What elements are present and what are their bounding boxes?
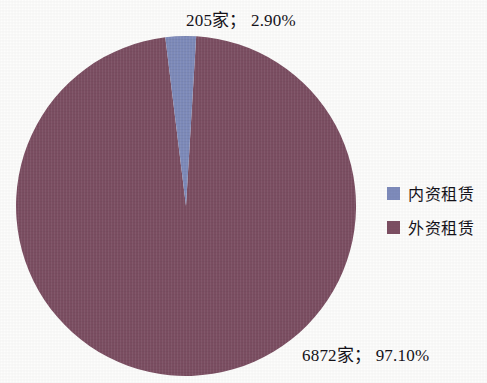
legend-label-foreign-leasing: 外资租赁 — [408, 215, 474, 239]
data-label-large-slice: 6872家； 97.10% — [302, 341, 429, 366]
pie-chart-figure: 205家； 2.90% 6872家； 97.10% 内资租赁 外资租赁 — [0, 0, 487, 383]
legend-label-domestic-leasing: 内资租赁 — [408, 181, 474, 205]
legend-swatch-foreign-leasing — [387, 221, 400, 234]
legend-swatch-domestic-leasing — [387, 187, 400, 200]
data-label-small-slice: 205家； 2.90% — [186, 6, 296, 31]
chart-legend: 内资租赁 外资租赁 — [387, 176, 487, 244]
legend-item-foreign-leasing[interactable]: 外资租赁 — [387, 210, 487, 244]
legend-item-domestic-leasing[interactable]: 内资租赁 — [387, 176, 487, 210]
